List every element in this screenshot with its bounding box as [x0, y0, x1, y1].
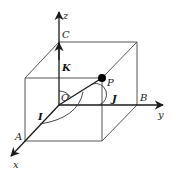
point-b-label: B: [139, 92, 147, 103]
point-c-label: C: [62, 29, 70, 40]
angle-arcs: [40, 83, 107, 124]
labels: z y x C O B A P K J I: [13, 10, 164, 170]
depth-edge-top-right: [102, 42, 137, 78]
point-p-marker: [98, 74, 106, 82]
unit-vector-k-label: K: [61, 62, 72, 73]
point-a-label: A: [14, 131, 22, 142]
direction-cosine-diagram: z y x C O B A P K J I: [0, 0, 176, 173]
z-axis-label: z: [62, 10, 69, 21]
axes: [11, 12, 163, 156]
depth-edge-top-left: [25, 42, 59, 78]
unit-vector-i-label: I: [37, 111, 43, 122]
unit-vector-j-label: J: [110, 93, 118, 104]
origin-label: O: [61, 92, 69, 103]
point-p-label: P: [106, 77, 114, 88]
diagram-svg: z y x C O B A P K J I: [0, 0, 176, 173]
x-axis-label: x: [13, 159, 19, 170]
depth-edge-bottom-right: [102, 105, 137, 141]
angle-arc-beta: [92, 83, 107, 105]
y-axis-label: y: [157, 109, 164, 120]
